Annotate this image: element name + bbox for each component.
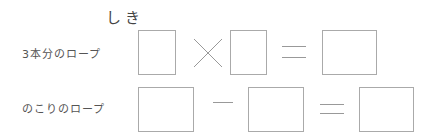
row1-equals-icon	[282, 46, 306, 47]
row2-equals-icon-lower	[320, 113, 344, 114]
row2-label: のこりのロープ	[22, 100, 105, 116]
row2-equals-icon	[320, 104, 344, 105]
multiply-icon	[193, 38, 223, 68]
row1-answer-box-3[interactable]	[322, 30, 377, 75]
formula-heading: しき	[106, 6, 144, 27]
minus-icon	[213, 102, 233, 103]
row1-equals-icon-lower	[282, 57, 306, 58]
row1-answer-box-2[interactable]	[230, 30, 267, 75]
row2-answer-box-1[interactable]	[138, 87, 194, 132]
row2-answer-box-2[interactable]	[248, 87, 304, 132]
row1-label: 3本分のロープ	[22, 45, 101, 61]
row2-answer-box-3[interactable]	[359, 87, 414, 132]
row1-answer-box-1[interactable]	[138, 30, 176, 75]
